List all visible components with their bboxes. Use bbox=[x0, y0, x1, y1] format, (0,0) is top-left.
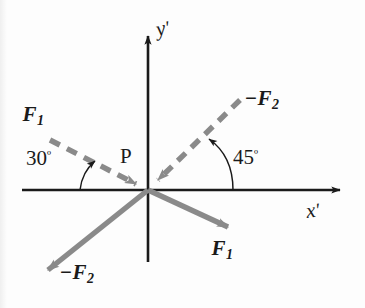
origin-label-text: P bbox=[120, 144, 132, 168]
neg-f2-dashed-sign: − bbox=[245, 86, 257, 110]
angle-30-arc bbox=[80, 161, 95, 190]
neg-f2-dashed-symbol: F bbox=[257, 86, 271, 110]
neg-f2-solid-vector bbox=[48, 190, 148, 270]
neg-f2-solid-sign: − bbox=[60, 260, 72, 284]
angle-45-degree-symbol: º bbox=[254, 146, 258, 161]
f1-solid-label: F1 bbox=[211, 238, 233, 262]
diagram-canvas bbox=[0, 0, 365, 308]
neg-f2-solid-subscript: 2 bbox=[87, 271, 94, 286]
f1-solid-subscript: 1 bbox=[226, 247, 233, 262]
angle-45-label: 45º bbox=[233, 147, 258, 168]
neg-f2-solid-label: −F2 bbox=[60, 262, 94, 286]
f1-dashed-label: F1 bbox=[22, 104, 44, 128]
neg-f2-dashed-vector bbox=[158, 100, 240, 180]
f1-dashed-symbol: F bbox=[23, 102, 37, 126]
angle-30-degree-symbol: º bbox=[47, 147, 51, 162]
origin-point-label: P bbox=[120, 146, 132, 167]
f1-solid-vector bbox=[148, 190, 228, 227]
angle-45-arc bbox=[209, 139, 233, 190]
angle-30-value: 30 bbox=[26, 146, 47, 170]
neg-f2-dashed-subscript: 2 bbox=[272, 97, 279, 112]
angle-45-value: 45 bbox=[233, 145, 254, 169]
f1-dashed-subscript: 1 bbox=[37, 113, 44, 128]
angle-30-label: 30º bbox=[26, 148, 51, 169]
neg-f2-solid-symbol: F bbox=[72, 260, 86, 284]
neg-f2-dashed-label: −F2 bbox=[245, 88, 279, 112]
force-vector-diagram: y′ x′ P F1 −F2 F1 −F2 30º 45º bbox=[0, 0, 365, 308]
x-prime-axis-label: x′ bbox=[305, 199, 321, 222]
f1-solid-symbol: F bbox=[212, 236, 226, 260]
